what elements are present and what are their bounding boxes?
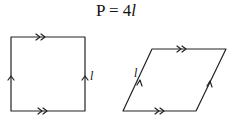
shapes-diagram: l l: [0, 0, 232, 125]
rhombus-side-label: l: [134, 66, 138, 80]
square-side-label: l: [90, 69, 94, 83]
rhombus-left-arrow-icon: [137, 80, 142, 86]
square-shape: [11, 37, 85, 111]
rhombus-shape: [123, 49, 226, 111]
